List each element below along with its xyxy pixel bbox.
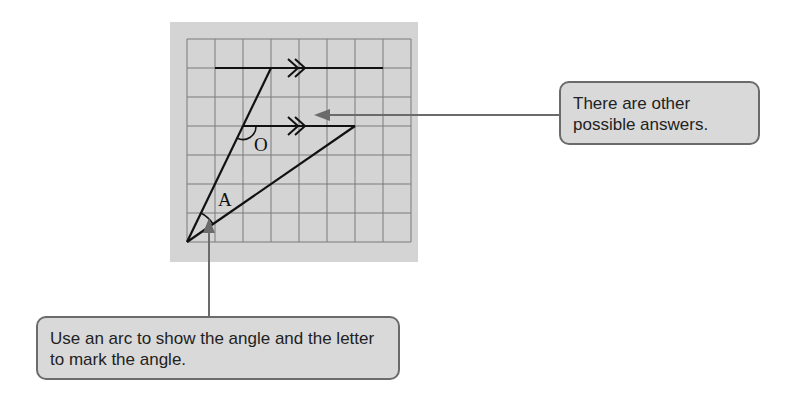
callout-other-answers: There are other possible answers. bbox=[559, 81, 760, 145]
pointer-arrow-bottom bbox=[203, 218, 215, 316]
angle-a-label: A bbox=[218, 189, 232, 210]
callout-right-text: There are other possible answers. bbox=[573, 94, 708, 134]
callout-arc-instructions: Use an arc to show the angle and the let… bbox=[36, 316, 400, 380]
angle-o-label: O bbox=[254, 134, 268, 155]
callout-bottom-text: Use an arc to show the angle and the let… bbox=[50, 329, 374, 369]
